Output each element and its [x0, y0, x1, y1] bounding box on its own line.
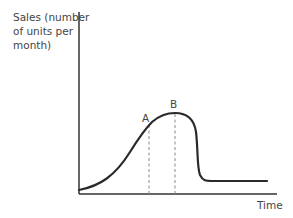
x-axis-label: Time — [257, 199, 283, 211]
point-b-label: B — [170, 98, 177, 110]
sales-curve — [79, 113, 267, 190]
point-a-label: A — [142, 112, 149, 124]
y-axis-label: Sales (number of units per month) — [13, 10, 89, 52]
